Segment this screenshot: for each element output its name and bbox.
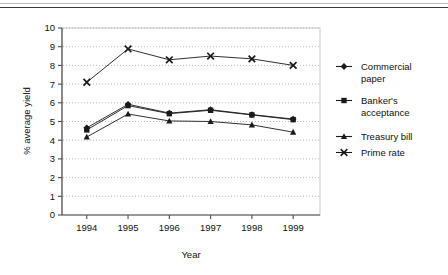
legend-label: Commercial [361, 61, 412, 72]
legend-item[interactable]: Prime rate [336, 147, 405, 158]
x-axis-tick-label: 1997 [200, 222, 221, 233]
legend-item[interactable]: Treasury bill [336, 131, 412, 142]
y-axis-tick-label: 6 [50, 97, 55, 108]
legend-label: Prime rate [361, 147, 405, 158]
y-axis-tick-label: 4 [50, 135, 55, 146]
x-axis-tick-label: 1999 [283, 222, 304, 233]
x-axis: 199419951996199719981999 [76, 215, 304, 233]
y-axis-tick-label: 1 [50, 191, 55, 202]
x-axis-tick-label: 1998 [241, 222, 262, 233]
legend-item[interactable]: Banker'sacceptance [336, 95, 410, 118]
square-marker-icon [341, 98, 346, 103]
chart-svg: 012345678910 199419951996199719981999 % … [0, 0, 448, 275]
x-axis-title: Year [181, 249, 200, 260]
y-axis-tick-label: 3 [50, 153, 55, 164]
y-axis-tick-label: 2 [50, 172, 55, 183]
square-marker-icon [84, 127, 89, 132]
square-marker-icon [125, 103, 130, 108]
y-axis-tick-label: 0 [50, 209, 55, 220]
y-axis-tick-label: 7 [50, 79, 55, 90]
square-marker-icon [167, 111, 172, 116]
diamond-marker-icon [341, 63, 348, 70]
y-axis-title: % average yield [21, 87, 32, 155]
y-axis: 012345678910 [44, 22, 62, 220]
square-marker-icon [290, 117, 295, 122]
legend-label: Banker's [361, 95, 398, 106]
y-axis-tick-label: 9 [50, 41, 55, 52]
legend-label-continuation: paper [361, 73, 385, 84]
y-axis-tick-label: 10 [44, 22, 55, 33]
y-axis-tick-label: 8 [50, 60, 55, 71]
x-axis-tick-label: 1996 [159, 222, 180, 233]
x-axis-tick-label: 1995 [117, 222, 138, 233]
square-marker-icon [208, 108, 213, 113]
chart-legend: CommercialpaperBanker'sacceptanceTreasur… [336, 61, 412, 158]
legend-label: Treasury bill [361, 131, 412, 142]
line-chart: 012345678910 199419951996199719981999 % … [0, 0, 448, 275]
square-marker-icon [249, 112, 254, 117]
y-axis-tick-label: 5 [50, 116, 55, 127]
legend-label-continuation: acceptance [361, 107, 410, 118]
x-axis-tick-label: 1994 [76, 222, 97, 233]
legend-item[interactable]: Commercialpaper [336, 61, 412, 84]
